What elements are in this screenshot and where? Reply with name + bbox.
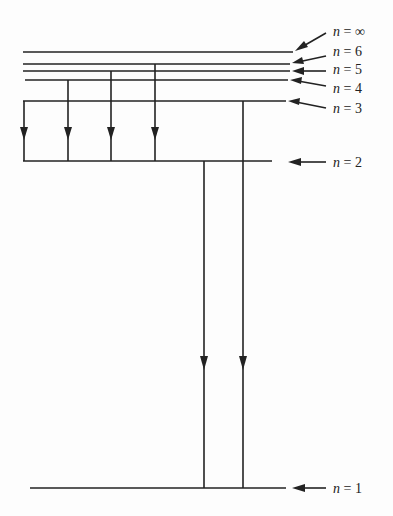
label-n-inf: n = ∞ <box>333 24 365 39</box>
pointer-arrow-n-2 <box>288 158 326 166</box>
transition-3-to-1 <box>239 101 247 488</box>
energy-level-diagram: n = ∞ n = 6 n = 5 n = 4 n = 3 n = 2 n = … <box>0 0 393 516</box>
label-n-3: n = 3 <box>333 101 362 116</box>
label-n-2: n = 2 <box>333 155 362 170</box>
transition-2-to-1 <box>200 161 208 488</box>
pointer-arrow-n-4 <box>290 77 326 86</box>
transition-5-to-2 <box>107 71 115 161</box>
label-n-1: n = 1 <box>333 481 362 496</box>
transition-6-to-2 <box>151 64 159 161</box>
label-n-6: n = 6 <box>333 44 362 59</box>
transition-3-to-2 <box>20 101 28 161</box>
pointer-arrow-n-3 <box>288 98 326 108</box>
pointer-arrow-n-inf <box>295 33 326 51</box>
pointer-arrow-n-5 <box>292 67 326 75</box>
pointer-arrow-n-6 <box>292 56 326 64</box>
transition-4-to-2 <box>64 80 72 161</box>
label-n-5: n = 5 <box>333 62 362 77</box>
pointer-arrow-n-1 <box>292 484 326 492</box>
label-n-4: n = 4 <box>333 81 362 96</box>
